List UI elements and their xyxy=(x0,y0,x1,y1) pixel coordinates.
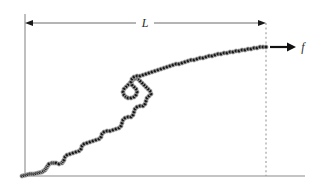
figure-canvas: L f xyxy=(0,0,325,190)
chain-bead xyxy=(264,45,268,49)
polymer-chain-figure: L f xyxy=(0,0,325,190)
length-label: L xyxy=(141,16,149,30)
